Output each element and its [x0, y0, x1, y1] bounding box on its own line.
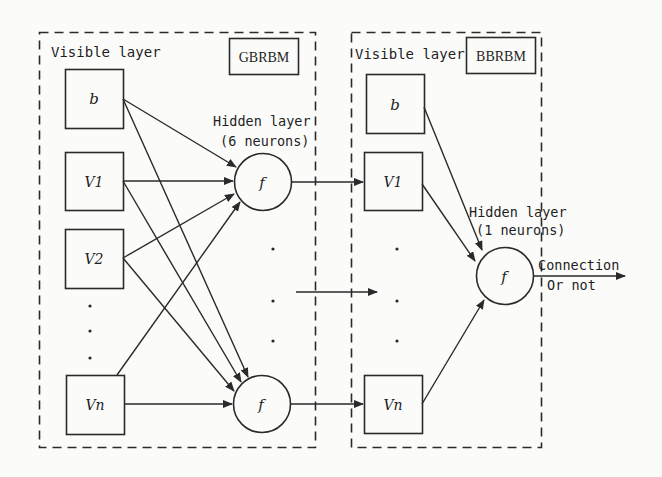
bbrbm-visible-layer-label: Visible layer — [355, 46, 465, 62]
output-label-line1: Connection — [538, 257, 619, 273]
inter-panel-connections — [291, 182, 377, 404]
bbrbm-connections — [422, 107, 484, 404]
bbrbm-input-b-label: b — [390, 96, 400, 114]
gbrbm-input-ellipsis — [88, 304, 91, 359]
gbrbm-panel: Visible layer GBRBM b V1 V2 Vn Hidden la… — [40, 33, 316, 448]
bbrbm-input-v1-label: V1 — [383, 174, 402, 190]
gbrbm-input-v2-label: V2 — [84, 251, 103, 267]
gbrbm-hidden-layer-label: Hidden layer — [213, 113, 311, 129]
gbrbm-tag-label: GBRBM — [239, 50, 290, 65]
bbrbm-hidden-count: (1 neurons) — [476, 222, 565, 238]
bbrbm-input-vn-label: Vn — [383, 397, 402, 413]
bbrbm-input-ellipsis — [395, 247, 398, 342]
output-label-line2: Or not — [547, 277, 596, 293]
bbrbm-tag-label: BBRBM — [476, 49, 526, 64]
gbrbm-hidden-ellipsis — [271, 247, 274, 342]
bbrbm-panel: Visible layer BBRBM b V1 Vn Hidden layer… — [352, 33, 567, 448]
gbrbm-hidden-count: (6 neurons) — [220, 133, 309, 149]
diagram-canvas: Visible layer GBRBM b V1 V2 Vn Hidden la… — [0, 0, 662, 477]
gbrbm-input-vn-label: Vn — [85, 397, 104, 413]
network-diagram: Visible layer GBRBM b V1 V2 Vn Hidden la… — [0, 0, 662, 477]
gbrbm-visible-layer-label: Visible layer — [51, 44, 161, 60]
output: Connection Or not — [534, 257, 625, 293]
bbrbm-dashed-border — [352, 33, 542, 448]
gbrbm-input-b-label: b — [89, 90, 99, 108]
gbrbm-input-v1-label: V1 — [84, 174, 103, 190]
bbrbm-hidden-layer-label: Hidden layer — [469, 204, 567, 220]
